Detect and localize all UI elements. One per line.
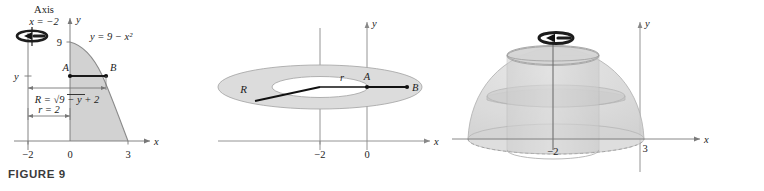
inner-radius-label: r = 2 [38, 104, 60, 115]
region-panel: Axis x = −2 9 y = 9 − x² y A B R = √9 − … [13, 4, 159, 160]
washer-point-A-label: A [363, 71, 371, 82]
solid-y-axis-arrowhead [638, 22, 643, 28]
point-A-marker [68, 74, 72, 78]
shaded-region [70, 42, 128, 141]
solid-panel: −2 3 x y [452, 18, 709, 172]
axis-note-title: Axis [34, 4, 54, 15]
x-axis-label: x [153, 136, 159, 147]
figure-caption: FIGURE 9 [8, 168, 66, 180]
solid-x-axis-arrowhead [694, 137, 700, 142]
axis-note-equation: x = −2 [28, 16, 59, 27]
y-axis-label: y [75, 14, 81, 25]
x-tick-label-neg2: −2 [22, 149, 33, 160]
washer-point-A-marker [365, 85, 369, 89]
point-B-label: B [110, 62, 117, 73]
r-measure-arrow-right [65, 114, 70, 118]
point-A-label: A [62, 62, 70, 73]
washer-y-axis-arrowhead [365, 22, 370, 28]
y-level-label: y [13, 71, 19, 82]
R-measure-arrow-left [28, 86, 33, 90]
washer-x-tick-label-neg2: −2 [314, 149, 325, 160]
curve-equation-label: y = 9 − x² [89, 31, 133, 42]
washer-x-tick-label-0: 0 [364, 149, 369, 160]
washer-point-B-label: B [412, 82, 419, 93]
solid-x-tick-label-3: 3 [642, 143, 647, 154]
solid-x-axis-label: x [703, 134, 709, 145]
washer-point-B-marker [405, 85, 409, 89]
washer-panel: R r A B −2 0 x y [218, 18, 439, 160]
washer-x-axis-arrowhead [424, 139, 430, 144]
x-tick-label-0: 0 [67, 149, 72, 160]
rotation-arrow-icon [539, 32, 573, 43]
figure-9-diagram: Axis x = −2 9 y = 9 − x² y A B R = √9 − … [0, 0, 764, 191]
rotation-arrow-icon [17, 27, 47, 46]
x-axis-arrowhead [144, 139, 150, 144]
y-axis-arrowhead [68, 18, 73, 24]
washer-outer-radius-label: R [239, 83, 247, 95]
figure-canvas: Axis x = −2 9 y = 9 − x² y A B R = √9 − … [0, 0, 764, 191]
y-value-label-9: 9 [57, 37, 62, 48]
x-tick-label-3: 3 [125, 149, 130, 160]
solid-y-axis-label: y [644, 18, 650, 29]
washer-y-axis-label: y [371, 18, 377, 29]
solid-x-tick-label-neg2: −2 [547, 146, 558, 157]
washer-x-axis-label: x [433, 136, 439, 147]
r-measure-arrow-left [28, 114, 33, 118]
